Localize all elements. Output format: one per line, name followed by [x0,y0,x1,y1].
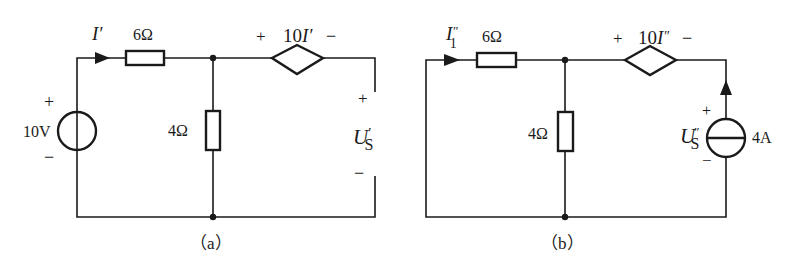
wire-b-top-right [676,60,726,119]
dep-plus-b: + [613,29,623,48]
resistor-4ohm-a [206,111,220,150]
resistor-6ohm-a-label: 6Ω [133,26,153,43]
source-voltage-label-b: U″S [680,124,700,152]
resistor-4ohm-a-label: 4Ω [168,122,188,139]
current-arrow-icon [95,52,110,64]
source-plus-a: + [44,92,54,112]
voltage-source-value: 10V [23,123,51,140]
node-dot [562,214,568,220]
dependent-source-label-b: 10I″ [638,27,669,48]
dep-plus-a: + [256,27,266,46]
node-dot [210,214,216,220]
current-source-value: 4A [752,129,772,146]
resistor-4ohm-b-label: 4Ω [528,125,548,142]
resistor-6ohm-b-label: 6Ω [482,28,502,45]
source-voltage-plus-b: + [702,102,711,119]
caption-b: （b） [541,234,584,253]
wire-a-top-right [323,58,375,92]
node-dot [562,57,568,63]
current-source-arrow-icon [720,80,732,95]
dependent-source-diamond-icon [625,46,676,75]
terminal-minus-a: − [354,163,364,183]
current-label-a: I′ [91,23,103,44]
wire-a-left-bottom [77,150,375,217]
dep-minus-b: − [682,28,692,48]
resistor-6ohm-b [477,53,516,67]
caption-a: （a） [190,234,232,253]
wire-a-left [77,58,126,112]
node-dot [210,55,216,61]
current-label-b: I″1 [445,23,458,51]
source-voltage-minus-b: − [702,151,712,170]
circuit-a [58,45,375,220]
terminal-voltage-label-a: U′S [353,125,373,153]
resistor-4ohm-b [558,112,573,151]
circuit-diagram: I′ 6Ω 4Ω + 10V − + 10I′ − + U′S − （a） I″… [0,0,794,270]
dependent-source-diamond-icon [272,45,323,74]
resistor-6ohm-a [126,51,164,65]
terminal-plus-a: + [358,89,368,108]
dep-minus-a: − [326,26,336,46]
dependent-source-label-a: 10I′ [283,25,313,46]
source-minus-a: − [44,147,54,167]
current-arrow-icon [444,54,460,66]
